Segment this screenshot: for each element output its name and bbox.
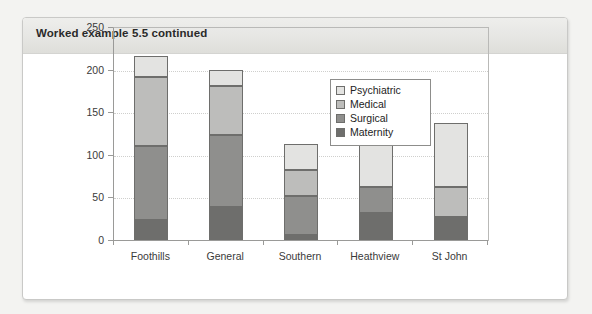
bar-segment-surgical[interactable] — [209, 135, 243, 207]
legend-item: Psychiatric — [336, 84, 425, 97]
bar-segment-maternity[interactable] — [209, 207, 243, 241]
bar-foothills[interactable] — [134, 28, 168, 241]
bar-segment-psychiatric[interactable] — [209, 70, 243, 86]
bar-segment-psychiatric[interactable] — [284, 144, 318, 170]
bar-st-john[interactable] — [434, 28, 468, 241]
y-axis-tick-mark — [108, 197, 113, 198]
bar-segment-surgical[interactable] — [284, 196, 318, 235]
bar-segment-psychiatric[interactable] — [434, 123, 468, 187]
x-axis-tick-mark — [263, 240, 264, 245]
bar-segment-medical[interactable] — [134, 77, 168, 146]
legend-item: Maternity — [336, 126, 425, 139]
x-axis-tick-label: General — [207, 250, 244, 262]
y-axis-tick-label: 50 — [0, 191, 104, 203]
x-axis-tick-label: Southern — [279, 250, 322, 262]
chart-legend: Psychiatric Medical Surgical Maternity — [330, 79, 431, 146]
bar-general[interactable] — [209, 28, 243, 241]
bar-segment-maternity[interactable] — [359, 213, 393, 241]
x-axis-tick-label: Foothills — [131, 250, 170, 262]
plot-area — [113, 27, 489, 241]
y-axis-tick-mark — [108, 70, 113, 71]
y-axis-tick-label: 150 — [0, 106, 104, 118]
x-axis-tick-mark — [337, 240, 338, 245]
bars-layer — [114, 28, 488, 241]
legend-swatch-surgical — [336, 114, 345, 123]
bar-segment-surgical[interactable] — [359, 187, 393, 213]
x-axis-tick-mark — [113, 240, 114, 245]
y-axis-tick-label: 0 — [0, 234, 104, 246]
legend-swatch-psychiatric — [336, 86, 345, 95]
bar-segment-medical[interactable] — [209, 86, 243, 135]
legend-item: Surgical — [336, 112, 425, 125]
legend-label-medical: Medical — [350, 99, 386, 110]
y-axis-tick-mark — [108, 155, 113, 156]
x-axis-line — [113, 240, 488, 241]
bar-southern[interactable] — [284, 28, 318, 241]
legend-label-surgical: Surgical — [350, 113, 388, 124]
legend-item: Medical — [336, 98, 425, 111]
y-axis-tick-mark — [108, 27, 113, 28]
bar-segment-medical[interactable] — [284, 170, 318, 196]
legend-label-maternity: Maternity — [350, 127, 393, 138]
bar-segment-maternity[interactable] — [134, 220, 168, 241]
y-axis-tick-label: 100 — [0, 149, 104, 161]
x-axis-tick-label: St John — [432, 250, 468, 262]
legend-swatch-medical — [336, 100, 345, 109]
x-axis-tick-label: Heathview — [350, 250, 399, 262]
bar-segment-surgical[interactable] — [134, 146, 168, 220]
x-axis-tick-mark — [412, 240, 413, 245]
y-axis-tick-label: 250 — [0, 21, 104, 33]
legend-swatch-maternity — [336, 128, 345, 137]
bar-segment-maternity[interactable] — [434, 217, 468, 241]
y-axis-tick-mark — [108, 112, 113, 113]
x-axis-tick-mark — [487, 240, 488, 245]
y-axis-tick-label: 200 — [0, 64, 104, 76]
x-axis-tick-mark — [188, 240, 189, 245]
bar-segment-psychiatric[interactable] — [134, 56, 168, 76]
bar-segment-medical[interactable] — [434, 187, 468, 217]
legend-label-psychiatric: Psychiatric — [350, 85, 401, 96]
screenshot-root: Worked example 5.5 continued 05010015020… — [0, 0, 592, 314]
